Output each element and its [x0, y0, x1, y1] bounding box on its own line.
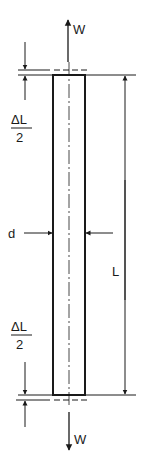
- top-delta-label: ΔL 2: [11, 112, 32, 145]
- length-label: L: [112, 264, 119, 279]
- bottom-delta-denominator: 2: [16, 337, 23, 352]
- bottom-load-label: W: [74, 432, 87, 447]
- top-delta-denominator: 2: [16, 130, 23, 145]
- diameter-label: d: [8, 226, 15, 241]
- bottom-delta-label: ΔL 2: [11, 319, 32, 352]
- rod-diagram: W ΔL 2 d L ΔL 2: [0, 0, 146, 463]
- top-load-label: W: [73, 22, 86, 37]
- bottom-delta-numerator: ΔL: [11, 319, 27, 334]
- top-delta-numerator: ΔL: [11, 112, 27, 127]
